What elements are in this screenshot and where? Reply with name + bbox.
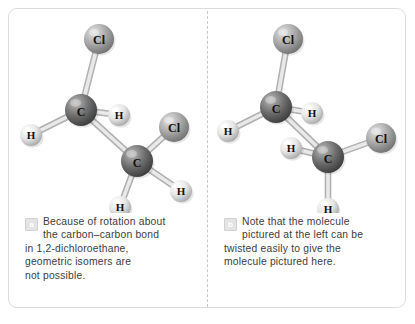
caption-line: Because of rotation about — [25, 215, 201, 228]
panel-badge-b: b — [224, 218, 237, 231]
caption-line: pictured at the left can be — [224, 228, 400, 241]
molecule-diagram-a: ClCHClHCHH — [9, 13, 207, 213]
atom-cl: Cl — [366, 123, 398, 155]
caption-line: molecule pictured here. — [224, 255, 400, 268]
caption-line: not possible. — [25, 269, 201, 282]
atom-c: C — [260, 91, 294, 125]
caption-text-b: Note that the moleculepictured at the le… — [224, 215, 400, 269]
atom-label: Cl — [168, 121, 181, 135]
atom-label: H — [224, 125, 233, 137]
caption-line: in 1,2-dichloroethane, — [25, 242, 201, 255]
atom-label: H — [324, 203, 333, 213]
atom-h: H — [301, 102, 325, 126]
atom-label: H — [287, 142, 296, 154]
atom-label: Cl — [93, 33, 106, 47]
figure-frame: ClCHClHCHH a Because of rotation aboutth… — [8, 8, 406, 308]
atom-label: C — [324, 152, 333, 166]
caption-b: b Note that the moleculepictured at the … — [224, 215, 400, 269]
molecule-svg: ClCHHClHCH — [208, 13, 406, 213]
caption-a: a Because of rotation aboutthe carbon–ca… — [25, 215, 201, 282]
atom-cl: Cl — [273, 24, 305, 56]
atom-cl: Cl — [84, 24, 116, 56]
caption-line: Note that the molecule — [224, 215, 400, 228]
atom-h: H — [109, 196, 133, 213]
panel-b: ClCHHClHCH b Note that the moleculepictu… — [208, 9, 406, 309]
atom-label: H — [115, 109, 124, 121]
atom-label: H — [116, 201, 125, 213]
atom-label: H — [308, 107, 317, 119]
panel-badge-a: a — [25, 218, 38, 231]
atom-c: C — [312, 141, 346, 175]
atom-h: H — [317, 198, 341, 213]
bond-layer — [31, 39, 181, 207]
atom-label: C — [272, 102, 281, 116]
atom-label: Cl — [375, 132, 388, 146]
atom-label: C — [133, 156, 142, 170]
caption-text-a: Because of rotation aboutthe carbon–carb… — [25, 215, 201, 282]
atom-h: H — [170, 180, 194, 204]
caption-line: twisted easily to give the — [224, 242, 400, 255]
atom-label: H — [177, 185, 186, 197]
atom-label: Cl — [282, 33, 295, 47]
atom-c: C — [65, 94, 99, 128]
atom-h: H — [280, 137, 304, 161]
atom-label: H — [27, 129, 36, 141]
molecule-diagram-b: ClCHHClHCH — [208, 13, 406, 213]
atom-h: H — [108, 104, 132, 128]
caption-line: the carbon–carbon bond — [25, 228, 201, 241]
caption-line: geometric isomers are — [25, 255, 201, 268]
bond-layer — [228, 39, 381, 209]
molecule-svg: ClCHClHCHH — [9, 13, 207, 213]
panel-a: ClCHClHCHH a Because of rotation aboutth… — [9, 9, 207, 309]
atom-label: C — [77, 105, 86, 119]
